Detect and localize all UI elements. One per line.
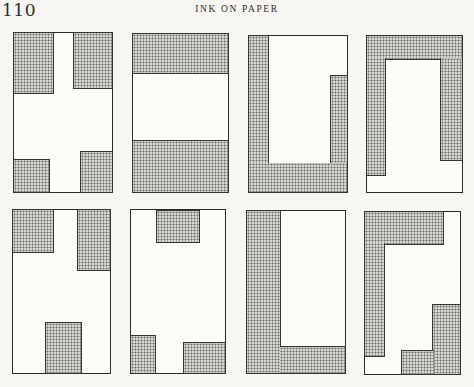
stipple-block <box>156 210 200 243</box>
stipple-block <box>77 209 111 271</box>
stipple-band-top <box>366 35 463 60</box>
stipple-column-right <box>432 304 461 375</box>
stipple-block <box>13 159 50 193</box>
stipple-block <box>73 32 113 89</box>
stipple-column-left <box>246 210 281 374</box>
stipple-step <box>401 350 434 375</box>
stipple-column-left <box>366 58 386 176</box>
stipple-block <box>13 32 54 94</box>
running-head: INK ON PAPER <box>0 4 474 14</box>
stipple-block <box>183 342 226 374</box>
stipple-band-bottom <box>280 346 346 374</box>
stipple-block <box>45 322 82 374</box>
stipple-band-bottom <box>248 163 348 193</box>
stipple-column-left <box>364 243 385 357</box>
stipple-block <box>80 151 113 193</box>
stipple-band-top <box>364 211 444 245</box>
stipple-block <box>130 335 156 374</box>
stipple-block <box>12 209 54 253</box>
stipple-band-top <box>132 33 229 74</box>
stipple-band-bottom <box>132 140 229 193</box>
stipple-column-right <box>440 58 463 161</box>
